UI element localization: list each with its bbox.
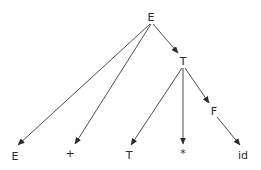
leaf-T: T [125, 149, 133, 162]
node-T: T [179, 55, 187, 68]
tree-nodes: E T F E + T * id [12, 11, 249, 163]
leaf-star: * [180, 147, 186, 160]
leaf-plus: + [65, 147, 74, 160]
edge-n0-n3 [18, 24, 150, 145]
leaf-id: id [238, 149, 248, 162]
node-F: F [211, 105, 217, 118]
edge-n1-n2 [185, 68, 209, 103]
edge-n1-n5 [131, 68, 182, 145]
edge-n0-n1 [153, 24, 178, 53]
leaf-E: E [12, 150, 19, 163]
parse-tree-diagram: E T F E + T * id [0, 0, 261, 170]
tree-edges [18, 24, 240, 145]
node-root-E: E [148, 11, 155, 24]
edge-n2-n7 [217, 117, 240, 145]
edge-n0-n4 [75, 24, 151, 144]
